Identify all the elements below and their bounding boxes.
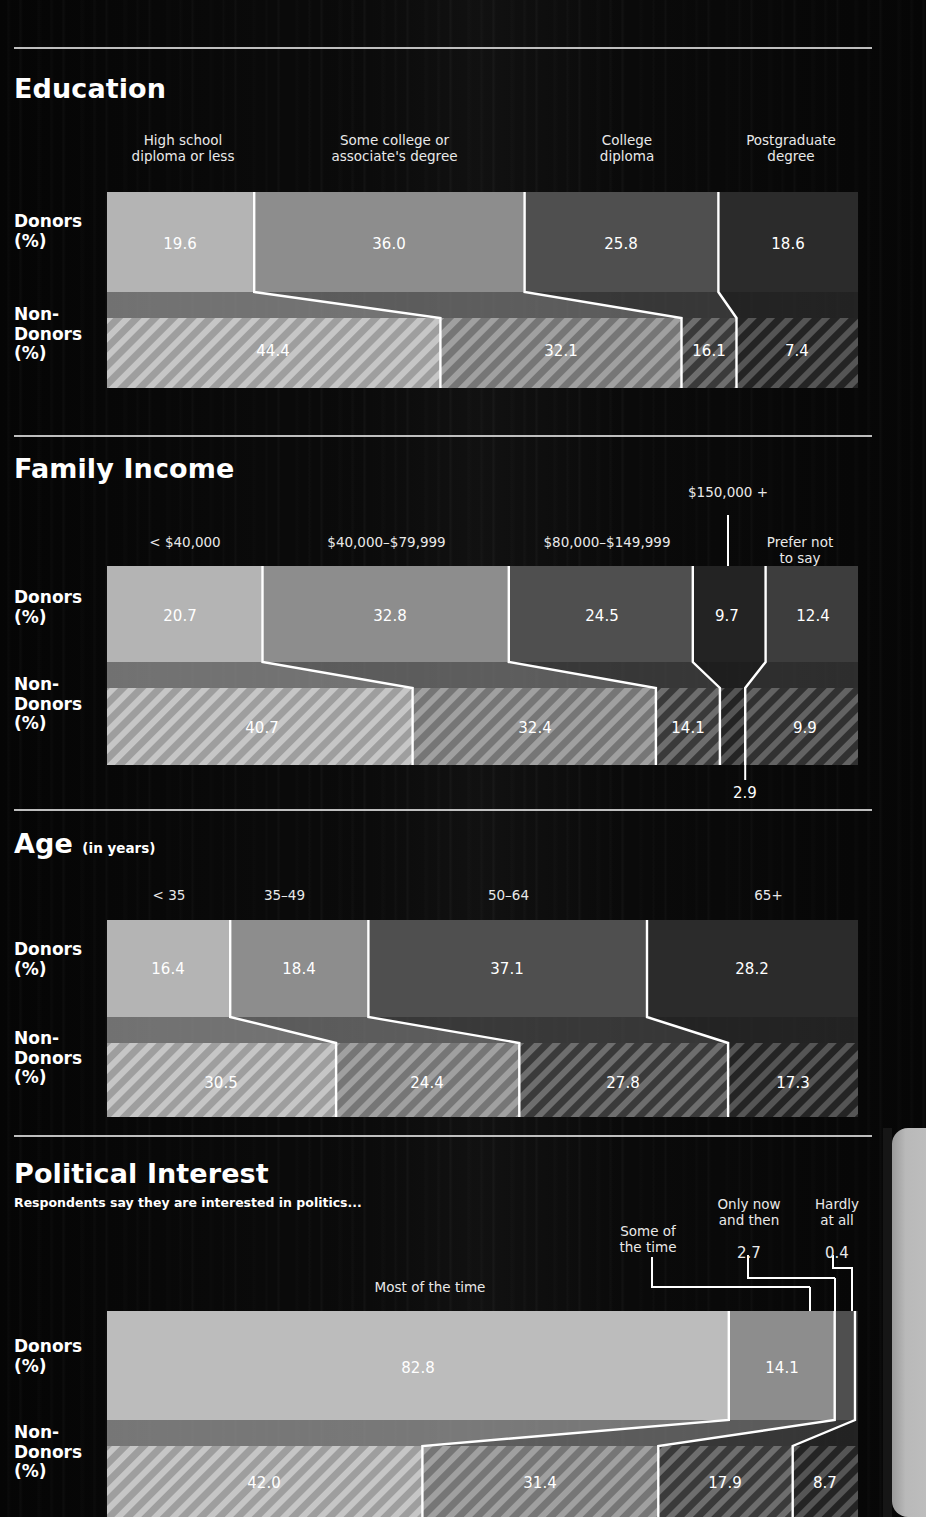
external-value-income-2point9: 2.9	[733, 784, 757, 802]
value-nondonors-income-1: 32.4	[518, 719, 551, 737]
value-donors-education-2: 25.8	[604, 235, 637, 253]
value-donors-education-1: 36.0	[372, 235, 405, 253]
value-donors-income-1: 32.8	[373, 607, 406, 625]
value-nondonors-political-3: 8.7	[813, 1474, 837, 1492]
value-nondonors-age-1: 24.4	[410, 1074, 443, 1092]
section-political-interest: Political Interest Respondents say they …	[0, 1135, 926, 1517]
external-value-political-hardly: 0.4	[800, 1245, 874, 1263]
value-nondonors-age-2: 27.8	[606, 1074, 639, 1092]
value-donors-political-0: 82.8	[401, 1359, 434, 1377]
value-nondonors-age-3: 17.3	[776, 1074, 809, 1092]
value-donors-income-4: 12.4	[796, 607, 829, 625]
value-donors-political-1: 14.1	[765, 1359, 798, 1377]
chart-political-interest: 82.8 14.1 42.0 31.4 17.9 8.7	[0, 1135, 926, 1517]
band-education-3	[718, 292, 858, 318]
value-nondonors-education-2: 16.1	[692, 342, 725, 360]
value-nondonors-income-2: 14.1	[671, 719, 704, 737]
value-nondonors-age-0: 30.5	[204, 1074, 237, 1092]
value-nondonors-education-0: 44.4	[256, 342, 289, 360]
section-family-income: Family Income Donors (%) Non- Donors (%)…	[0, 430, 926, 805]
external-value-political-onlynow: 2.7	[700, 1245, 798, 1263]
value-nondonors-education-1: 32.1	[544, 342, 577, 360]
value-donors-age-1: 18.4	[282, 960, 315, 978]
section-education: Education Donors (%) Non- Donors (%) Hig…	[0, 0, 926, 430]
side-panel[interactable]	[892, 1128, 926, 1517]
section-age: Age (in years) Donors (%) Non- Donors (%…	[0, 805, 926, 1135]
value-donors-age-3: 28.2	[735, 960, 768, 978]
seg-nondonors-income-3	[720, 688, 745, 765]
value-nondonors-political-2: 17.9	[708, 1474, 741, 1492]
value-donors-age-2: 37.1	[490, 960, 523, 978]
value-donors-education-3: 18.6	[771, 235, 804, 253]
chart-education: 19.6 36.0 25.8 18.6 44.4 32.1 16.1 7.4	[0, 0, 926, 430]
value-nondonors-income-0: 40.7	[245, 719, 278, 737]
value-donors-income-3: 9.7	[715, 607, 739, 625]
value-nondonors-income-4: 9.9	[793, 719, 817, 737]
value-donors-income-0: 20.7	[163, 607, 196, 625]
value-nondonors-education-3: 7.4	[785, 342, 809, 360]
seg-donors-political-2	[835, 1311, 855, 1420]
value-nondonors-political-1: 31.4	[523, 1474, 556, 1492]
chart-family-income: 2.9 20.7 32.8 24.5 9.7 12.4 40.7 32.4 14…	[0, 430, 926, 805]
value-nondonors-political-0: 42.0	[247, 1474, 280, 1492]
value-donors-age-0: 16.4	[151, 960, 184, 978]
value-donors-education-0: 19.6	[163, 235, 196, 253]
chart-age: 16.4 18.4 37.1 28.2 30.5 24.4 27.8 17.3	[0, 805, 926, 1135]
value-donors-income-2: 24.5	[585, 607, 618, 625]
